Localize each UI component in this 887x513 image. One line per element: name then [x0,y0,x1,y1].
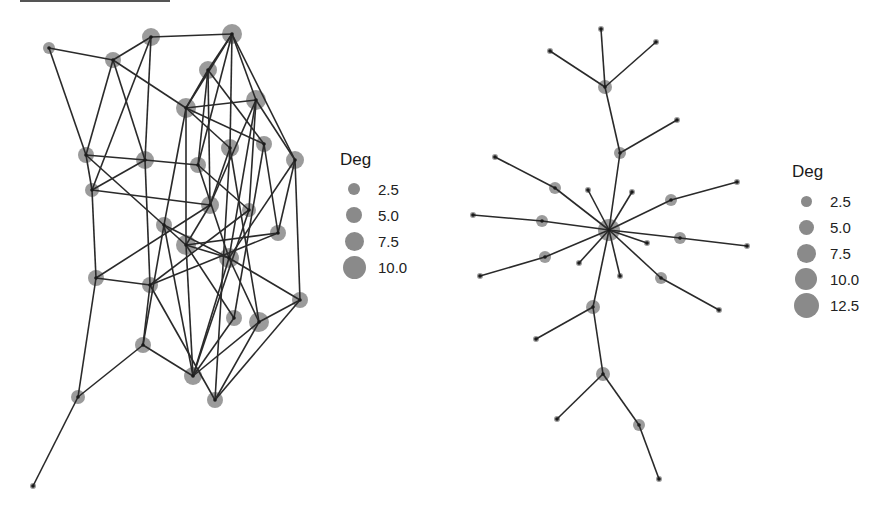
legend-item: 2.5 [792,188,859,214]
network-edge [113,60,145,160]
network-edge [33,397,78,486]
node-center [603,85,607,89]
legend-title: Deg [792,162,859,182]
legend-label: 10.0 [378,259,407,276]
legend-size-dot-icon [346,207,362,223]
node-center [276,231,280,235]
network-edge [605,87,620,153]
network-edge [96,278,150,285]
legend-item: 7.5 [792,240,859,266]
network-edge [215,322,259,400]
node-center [669,198,673,202]
node-center [534,337,538,341]
node-center [293,158,297,162]
node-center [232,316,236,320]
network-edge [557,374,603,419]
network-edge [473,215,542,221]
node-center [247,208,251,212]
network-edge [49,48,86,155]
node-center [540,219,544,223]
legend-item: 10.0 [792,266,859,292]
node-center [298,298,302,302]
legend-size-dot-icon [345,232,364,251]
node-center [94,276,98,280]
node-center [227,256,231,260]
network-canvas [0,0,887,513]
network-edge [259,300,300,322]
node-center [493,155,497,159]
node-center [143,158,147,162]
legend-label: 7.5 [378,233,399,250]
legend-size-dot-icon [343,256,366,279]
network-edge [78,345,143,397]
node-center [262,142,266,146]
node-center [735,180,739,184]
network-edge [86,60,113,155]
network-edge [229,160,295,258]
network-edge [151,34,232,37]
node-center [191,374,195,378]
node-center [206,68,210,72]
legend-item: 10.0 [340,254,407,280]
network-edge [550,51,605,87]
node-center [184,243,188,247]
network-edge [536,307,593,339]
node-center [657,477,661,481]
legend-label: 10.0 [830,271,859,288]
node-center [607,228,611,232]
node-center [630,190,634,194]
network-edge [232,34,256,100]
node-center [76,395,80,399]
network-edge [593,230,609,307]
node-center [586,188,590,192]
node-center [111,58,115,62]
legend-size-dot-icon [795,268,817,290]
node-center [599,27,603,31]
legend-label: 12.5 [830,297,859,314]
network-edge [229,100,256,258]
network-edge [145,37,151,160]
left-degree-legend: Deg 2.55.07.510.0 [340,150,407,280]
network-edge [92,190,96,278]
right-degree-legend: Deg 2.55.07.510.012.5 [792,162,859,318]
left-network-graph [30,24,308,489]
node-center [208,203,212,207]
legend-label: 5.0 [378,207,399,224]
network-edge [593,307,603,374]
legend-size-dot-icon [794,293,819,318]
node-center [577,261,581,265]
node-center [228,146,232,150]
legend-label: 2.5 [378,181,399,198]
network-edge [671,182,737,200]
legend-label: 7.5 [830,245,851,262]
node-center [213,398,217,402]
node-center [645,241,649,245]
network-edge [680,238,747,246]
node-center [148,283,152,287]
network-edge [234,144,264,318]
legend-item: 2.5 [340,176,407,202]
node-center [84,153,88,157]
node-center [618,274,622,278]
node-center [230,32,234,36]
network-edge [579,230,609,263]
network-edge [78,278,96,397]
network-edge [605,42,656,87]
node-center [618,151,622,155]
node-center [591,305,595,309]
node-center [196,163,200,167]
right-network-graph [470,26,750,482]
node-center [548,49,552,53]
network-edge [588,190,609,230]
network-edge [210,100,256,205]
network-edge [609,230,661,278]
network-edge [86,155,145,160]
node-center [162,223,166,227]
network-edge [230,34,232,148]
node-center [675,118,679,122]
network-edge [609,153,620,230]
node-center [637,423,641,427]
node-center [184,106,188,110]
network-edge [295,160,300,300]
node-center [543,255,547,259]
